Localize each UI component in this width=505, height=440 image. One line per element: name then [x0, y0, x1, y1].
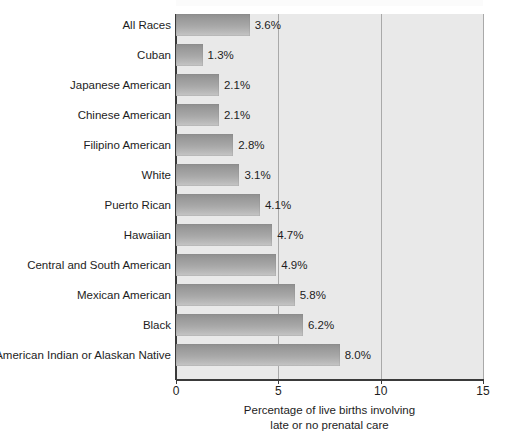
bar	[176, 44, 203, 66]
category-label: American Indian or Alaskan Native	[0, 344, 171, 366]
bar-row: Black6.2%	[0, 314, 505, 344]
bar	[176, 164, 239, 186]
tick-label-15: 15	[476, 384, 489, 398]
category-label: Mexican American	[77, 284, 171, 306]
tick-label-10: 10	[374, 384, 387, 398]
bar	[176, 74, 219, 96]
value-label: 2.1%	[224, 104, 250, 126]
category-label: White	[142, 164, 171, 186]
value-label: 8.0%	[345, 344, 371, 366]
bar	[176, 134, 233, 156]
top-clipped-strip	[176, 0, 483, 6]
category-label: Central and South American	[27, 254, 171, 276]
chart-figure: All Races3.6%Cuban1.3%Japanese American2…	[0, 0, 505, 440]
x-axis-line	[176, 379, 484, 381]
value-label: 6.2%	[308, 314, 334, 336]
bar	[176, 224, 272, 246]
value-label: 4.9%	[281, 254, 307, 276]
tick-label-5: 5	[275, 384, 282, 398]
bar	[176, 194, 260, 216]
value-label: 3.1%	[244, 164, 270, 186]
value-label: 5.8%	[300, 284, 326, 306]
value-label: 4.7%	[277, 224, 303, 246]
bar-row: Japanese American2.1%	[0, 74, 505, 104]
bar-row: Mexican American5.8%	[0, 284, 505, 314]
bar	[176, 14, 250, 36]
bar	[176, 254, 276, 276]
value-label: 2.1%	[224, 74, 250, 96]
bar	[176, 104, 219, 126]
bar-row: All Races3.6%	[0, 14, 505, 44]
category-label: Chinese American	[78, 104, 171, 126]
bar	[176, 314, 303, 336]
bar-row: Cuban1.3%	[0, 44, 505, 74]
value-label: 4.1%	[265, 194, 291, 216]
value-label: 1.3%	[208, 44, 234, 66]
bar-row: White3.1%	[0, 164, 505, 194]
category-label: All Races	[122, 14, 171, 36]
x-axis-title-line-2: late or no prenatal care	[176, 418, 483, 433]
category-label: Hawaiian	[124, 224, 171, 246]
category-label: Filipino American	[83, 134, 171, 156]
bar-row: Hawaiian4.7%	[0, 224, 505, 254]
value-label: 3.6%	[255, 14, 281, 36]
bar-row: Chinese American2.1%	[0, 104, 505, 134]
bar-row: Puerto Rican4.1%	[0, 194, 505, 224]
x-axis-title: Percentage of live births involving late…	[176, 403, 483, 433]
x-axis-title-line-1: Percentage of live births involving	[176, 403, 483, 418]
value-label: 2.8%	[238, 134, 264, 156]
tick-label-0: 0	[173, 384, 180, 398]
category-label: Black	[143, 314, 171, 336]
category-label: Puerto Rican	[105, 194, 171, 216]
bar-row: Filipino American2.8%	[0, 134, 505, 164]
category-label: Japanese American	[70, 74, 171, 96]
bar-row: Central and South American4.9%	[0, 254, 505, 284]
category-label: Cuban	[137, 44, 171, 66]
bar-row: American Indian or Alaskan Native8.0%	[0, 344, 505, 374]
bar	[176, 344, 340, 366]
bar	[176, 284, 295, 306]
